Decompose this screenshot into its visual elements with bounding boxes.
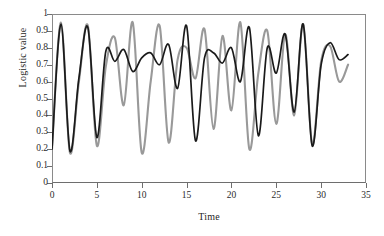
y-tick-label: 0	[14, 178, 48, 188]
series-group	[52, 22, 348, 154]
x-tick-mark	[231, 183, 232, 188]
x-tick-mark	[52, 183, 53, 188]
x-tick-label: 20	[227, 191, 237, 201]
y-axis-title: Logistic value	[17, 0, 28, 118]
x-tick-label: 0	[50, 191, 55, 201]
x-tick-mark	[142, 183, 143, 188]
x-axis-title: Time	[52, 211, 366, 222]
x-tick-label: 35	[361, 191, 371, 201]
x-tick-mark	[321, 183, 322, 188]
x-tick-mark	[276, 183, 277, 188]
y-tick-label: 0.3	[14, 127, 48, 137]
x-tick-label: 15	[182, 191, 192, 201]
chart-plot-svg	[52, 14, 366, 183]
x-tick-label: 5	[94, 191, 99, 201]
x-tick-label: 30	[316, 191, 326, 201]
x-tick-mark	[187, 183, 188, 188]
y-tick-label: 0.1	[14, 161, 48, 171]
x-tick-mark	[366, 183, 367, 188]
y-tick-label: 0.2	[14, 144, 48, 154]
x-tick-label: 25	[272, 191, 282, 201]
x-tick-label: 10	[137, 191, 147, 201]
chart-figure: 00.10.20.30.40.50.60.70.80.91 0510152025…	[0, 0, 384, 236]
x-tick-mark	[97, 183, 98, 188]
